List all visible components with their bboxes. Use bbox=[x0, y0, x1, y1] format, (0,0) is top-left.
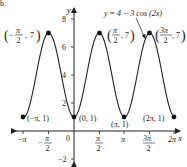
svg-text:7: 7 bbox=[30, 31, 34, 40]
svg-text:): ) bbox=[130, 28, 135, 44]
point-label-pi-over-2-7: ( π 2 , 7 ) bbox=[107, 26, 135, 45]
y-tick-8: 8 bbox=[62, 15, 66, 24]
svg-text:π: π bbox=[113, 26, 118, 35]
y-axis-label: y bbox=[66, 5, 71, 15]
svg-text:2: 2 bbox=[97, 144, 101, 153]
svg-text:,: , bbox=[172, 31, 174, 40]
point-label-0-1: (0, 1) bbox=[79, 114, 97, 123]
graph: b. y x 8 6 4 2 −2 0 −π π 2π − π 2 π 2 3π… bbox=[0, 0, 187, 167]
svg-text:2: 2 bbox=[114, 36, 118, 45]
point-label-pi-1: (π, 1) bbox=[111, 120, 129, 129]
svg-text:(: ( bbox=[107, 28, 112, 44]
origin-label: 0 bbox=[66, 134, 70, 143]
svg-text:2: 2 bbox=[164, 36, 168, 45]
svg-text:π: π bbox=[16, 26, 21, 35]
x-tick-2pi: 2π bbox=[168, 135, 177, 144]
svg-text:−: − bbox=[9, 31, 14, 40]
cosine-curve bbox=[24, 33, 176, 117]
svg-text:3π: 3π bbox=[142, 134, 152, 143]
point-label-neg-pi-over-2-7: ( − π 2 , 7 ) bbox=[4, 26, 41, 45]
svg-text:): ) bbox=[36, 28, 41, 44]
svg-text:π: π bbox=[45, 134, 50, 143]
point-label-3pi-over-2-7: ( 3π 2 , 7 ) bbox=[155, 26, 186, 45]
y-tick-4: 4 bbox=[62, 71, 66, 80]
x-tick-pi-over-2: π 2 bbox=[95, 134, 103, 153]
key-points bbox=[21, 31, 177, 120]
svg-text:π: π bbox=[96, 134, 101, 143]
svg-text:−: − bbox=[38, 138, 43, 147]
y-tick-6: 6 bbox=[62, 43, 66, 52]
svg-text:,: , bbox=[25, 31, 27, 40]
svg-text:2: 2 bbox=[147, 144, 151, 153]
point-label-neg-pi-1: (−π, 1) bbox=[27, 114, 49, 123]
svg-text:,: , bbox=[121, 31, 123, 40]
equation-label: y = 4 − 3 cos (2x) bbox=[103, 9, 162, 18]
x-tick-pi: π bbox=[121, 135, 126, 144]
svg-text:3π: 3π bbox=[159, 26, 169, 35]
x-tick-3pi-over-2: 3π 2 bbox=[142, 134, 155, 153]
point-label-2pi-1: (2π, 1) bbox=[143, 114, 165, 123]
x-tick-neg-pi-over-2: − π 2 bbox=[38, 134, 52, 153]
svg-text:2: 2 bbox=[46, 144, 50, 153]
y-tick-neg2: −2 bbox=[58, 155, 67, 164]
svg-text:2: 2 bbox=[17, 36, 21, 45]
svg-text:7: 7 bbox=[176, 31, 180, 40]
svg-text:7: 7 bbox=[125, 31, 129, 40]
x-axis-label: x bbox=[177, 133, 182, 143]
equation-arrow bbox=[136, 18, 145, 38]
figure-label: b. bbox=[0, 0, 6, 8]
svg-text:): ) bbox=[181, 28, 186, 44]
y-tick-2: 2 bbox=[62, 99, 66, 108]
x-tick-neg-pi: −π bbox=[17, 135, 27, 144]
